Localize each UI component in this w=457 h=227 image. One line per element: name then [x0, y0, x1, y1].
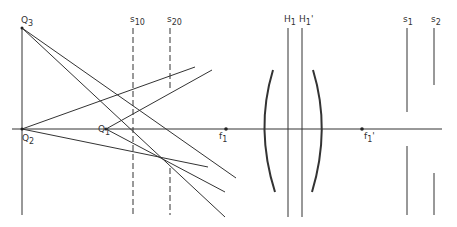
label-q3: Q3 — [21, 16, 33, 28]
label-h1p-main: H — [299, 14, 306, 24]
diagram-canvas — [0, 0, 457, 227]
label-q2: Q2 — [22, 134, 34, 146]
ray-q3-b — [22, 28, 225, 217]
ray-q1-a — [106, 70, 212, 129]
ray-q1-b — [106, 129, 225, 192]
label-q1-sub: 1 — [105, 128, 110, 137]
ray-q2-b — [22, 129, 208, 167]
label-f1: f1 — [219, 132, 227, 144]
lens-surface-left — [264, 70, 275, 192]
label-h1p-prime: ' — [311, 14, 313, 24]
label-f1-prime: f1' — [364, 132, 375, 144]
label-f1p-prime: ' — [372, 131, 374, 141]
focal-point-f1 — [224, 127, 228, 131]
ray-q2-a — [22, 67, 195, 129]
label-h1-sub: 1 — [291, 18, 296, 27]
label-h1: H1 — [284, 15, 296, 27]
label-q1: Q1 — [98, 125, 110, 137]
label-f1-sub: 1 — [222, 135, 227, 144]
label-s10-sub: 10 — [135, 18, 145, 27]
label-q3-sub: 3 — [28, 19, 33, 28]
label-q2-sub: 2 — [29, 137, 34, 146]
label-s2-sub: 2 — [436, 18, 441, 27]
label-s2: s2 — [431, 15, 441, 27]
point-q2 — [21, 128, 24, 131]
label-h1-main: H — [284, 14, 291, 24]
lens-surface-right — [312, 70, 322, 192]
ray-q3-a — [22, 28, 236, 178]
label-h1-prime: H1' — [299, 15, 313, 27]
label-s20-sub: 20 — [172, 18, 182, 27]
label-s1-sub: 1 — [408, 18, 413, 27]
optics-diagram: Q3 Q2 Q1 s10 s20 f1 f1' H1 H1' s1 s2 — [0, 0, 457, 227]
label-s20: s20 — [167, 15, 182, 27]
label-s10: s10 — [130, 15, 145, 27]
label-s1: s1 — [403, 15, 413, 27]
